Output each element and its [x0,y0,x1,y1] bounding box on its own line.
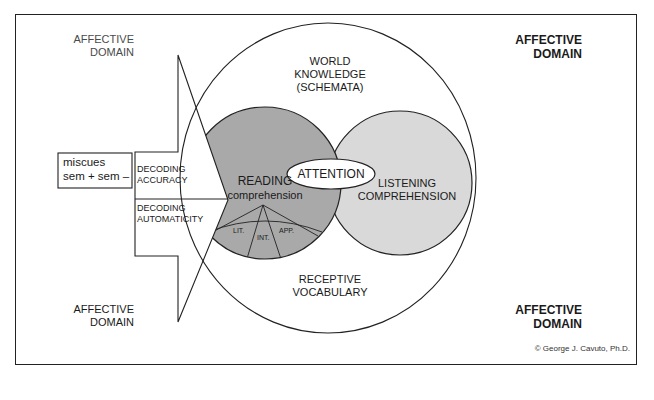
decoding-accuracy-label: DECODING ACCURACY [137,164,188,186]
segment-applied: APP. [279,227,294,235]
world-knowledge-label: WORLD KNOWLEDGE (SCHEMATA) [280,55,380,94]
receptive-vocabulary-label: RECEPTIVE VOCABULARY [280,273,380,299]
affective-domain-top-left: AFFECTIVE DOMAIN [64,33,134,59]
affective-domain-bottom-right: AFFECTIVE DOMAIN [500,303,582,331]
segment-literal: LIT. [233,227,244,235]
copyright-notice: © George J. Cavuto, Ph.D. [535,344,630,353]
miscues-label: miscues sem + sem – [60,155,131,188]
affective-domain-top-right: AFFECTIVE DOMAIN [500,33,582,61]
decoding-automaticity-label: DECODING AUTOMATICITY [137,203,203,225]
segment-interpretive: INT. [257,234,269,242]
affective-domain-bottom-left: AFFECTIVE DOMAIN [62,303,134,329]
listening-comprehension-label: LISTENING COMPREHENSION [352,177,462,203]
